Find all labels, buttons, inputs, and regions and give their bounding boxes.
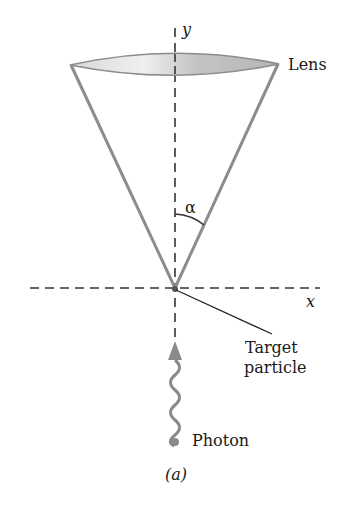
cone-left-edge bbox=[71, 65, 175, 288]
cone-right-edge bbox=[175, 64, 278, 288]
target-leader-line bbox=[176, 290, 272, 334]
target-label-line2: particle bbox=[244, 360, 307, 376]
photon-source-dot bbox=[171, 438, 179, 446]
figure-canvas: y Lens α x Target particle Photon (a) bbox=[0, 0, 346, 517]
lens-label: Lens bbox=[288, 57, 327, 73]
alpha-label: α bbox=[185, 200, 196, 216]
photon-arrowhead-icon bbox=[168, 341, 182, 360]
figure-caption: (a) bbox=[165, 467, 187, 483]
photon-wave-icon bbox=[170, 360, 179, 446]
diagram-svg bbox=[0, 0, 346, 517]
x-axis-label: x bbox=[306, 294, 315, 310]
y-axis-label: y bbox=[182, 22, 191, 38]
target-label-line1: Target bbox=[245, 340, 298, 356]
photon-label: Photon bbox=[192, 433, 249, 449]
